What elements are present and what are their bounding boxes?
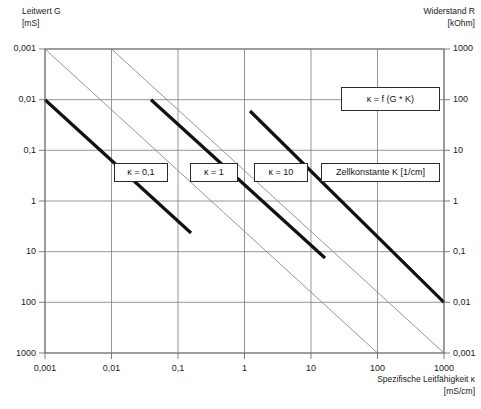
bottom-tick-1: 0,01: [88, 363, 136, 373]
formula-box: κ = f (G * K): [341, 87, 440, 111]
kappa-box-1: κ = 1: [190, 163, 238, 182]
left-tick-2: 0,1: [0, 145, 36, 155]
kappa-box-2: κ = 10: [254, 163, 308, 182]
thick-diagonal-kappa-10: [250, 111, 444, 302]
kappa-box-0: κ = 0,1: [114, 163, 168, 182]
right-tick-0: 1000: [453, 43, 481, 53]
plot-area: [0, 0, 481, 409]
left-tick-1: 0,01: [0, 94, 36, 104]
right-tick-2: 10: [453, 145, 481, 155]
right-tick-1: 100: [453, 94, 481, 104]
right-tick-3: 1: [453, 196, 481, 206]
bottom-tick-0: 0,001: [21, 363, 69, 373]
right-tick-5: 0,01: [453, 297, 481, 307]
left-tick-0: 0,001: [0, 43, 36, 53]
bottom-tick-5: 100: [354, 363, 402, 373]
left-tick-6: 1000: [0, 348, 36, 358]
legend-box: Zellkonstante K [1/cm]: [321, 163, 440, 182]
left-tick-4: 10: [0, 246, 36, 256]
left-tick-5: 100: [0, 297, 36, 307]
nomograph-chart: Leitwert G [mS] Widerstand R [kOhm] Spez…: [0, 0, 481, 409]
bottom-tick-4: 10: [287, 363, 335, 373]
left-tick-3: 1: [0, 196, 36, 206]
bottom-tick-6: 1000: [420, 363, 468, 373]
bottom-tick-2: 0,1: [154, 363, 202, 373]
right-tick-6: 0,001: [453, 348, 481, 358]
right-tick-4: 0,1: [453, 246, 481, 256]
bottom-tick-3: 1: [221, 363, 269, 373]
